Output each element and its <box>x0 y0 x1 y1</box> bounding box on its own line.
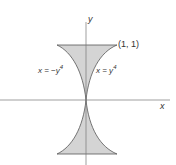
curve-left-text: x = −y <box>38 66 60 75</box>
curve-left-label: x = −y4 <box>38 64 63 75</box>
x-axis-label: x <box>160 101 165 111</box>
curve-right-exponent: 4 <box>113 64 116 70</box>
point-label: (1, 1) <box>118 39 139 49</box>
figure-canvas <box>0 0 176 165</box>
shaded-region <box>57 45 117 154</box>
curve-right-label: x = y4 <box>96 64 116 75</box>
curve-left-exponent: 4 <box>60 64 63 70</box>
curve-right-text: x = y <box>96 66 113 75</box>
y-axis-label: y <box>88 14 93 24</box>
